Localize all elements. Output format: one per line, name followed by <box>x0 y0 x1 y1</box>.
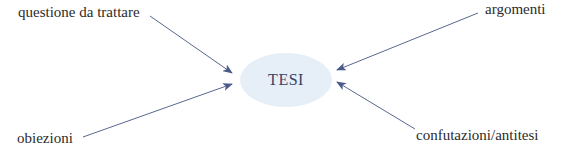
node-argomenti-label: argomenti <box>485 1 546 18</box>
arrow-confutazioni-to-tesi <box>337 82 415 129</box>
arrow-argomenti-to-tesi <box>337 13 478 70</box>
node-questione-label: questione da trattare <box>18 4 140 21</box>
tesi-label: TESI <box>240 53 332 107</box>
arrow-obiezioni-to-tesi <box>83 84 232 137</box>
arrow-questione-to-tesi <box>150 16 232 73</box>
node-obiezioni-label: obiezioni <box>17 130 73 147</box>
node-confutazioni-label: confutazioni/antitesi <box>416 127 538 144</box>
